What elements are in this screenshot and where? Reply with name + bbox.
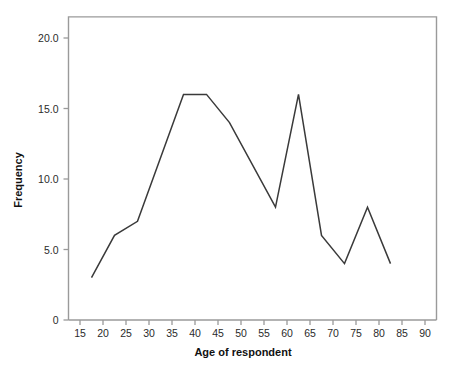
x-tick-label-55: 55 (258, 327, 270, 339)
plot-frame (69, 17, 437, 320)
x-tick-label-85: 85 (396, 327, 408, 339)
x-axis-ticks (80, 320, 425, 325)
x-tick-label-25: 25 (120, 327, 132, 339)
x-tick-label-65: 65 (304, 327, 316, 339)
x-tick-label-70: 70 (327, 327, 339, 339)
y-axis-tick-labels: 05.010.015.020.0 (38, 32, 59, 326)
y-tick-label-10.0: 10.0 (38, 173, 59, 185)
y-axis-title: Frequency (12, 151, 24, 208)
x-tick-label-20: 20 (97, 327, 109, 339)
x-axis-tick-labels: 15202530354045505560657075808590 (74, 327, 431, 339)
y-axis-ticks (64, 38, 69, 320)
x-tick-label-75: 75 (350, 327, 362, 339)
y-tick-label-0: 0 (53, 314, 59, 326)
x-tick-label-60: 60 (281, 327, 293, 339)
y-tick-label-20.0: 20.0 (38, 32, 59, 44)
x-tick-label-35: 35 (166, 327, 178, 339)
x-tick-label-50: 50 (235, 327, 247, 339)
frequency-line-series (92, 94, 391, 277)
x-tick-label-90: 90 (419, 327, 431, 339)
x-tick-label-15: 15 (74, 327, 86, 339)
y-tick-label-5.0: 5.0 (44, 244, 59, 256)
frequency-by-age-chart: 15202530354045505560657075808590 05.010.… (0, 0, 466, 374)
x-axis-title: Age of respondent (194, 346, 292, 358)
x-tick-label-40: 40 (189, 327, 201, 339)
x-tick-label-45: 45 (212, 327, 224, 339)
chart-svg: 15202530354045505560657075808590 05.010.… (0, 0, 466, 374)
x-tick-label-80: 80 (373, 327, 385, 339)
plot-border (69, 17, 437, 320)
x-tick-label-30: 30 (143, 327, 155, 339)
y-tick-label-15.0: 15.0 (38, 103, 59, 115)
